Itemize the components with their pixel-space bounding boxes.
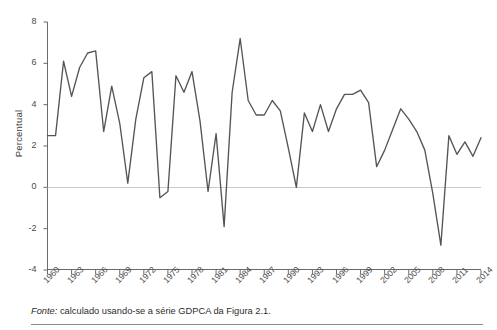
y-tick-label: 6 bbox=[15, 57, 37, 67]
y-tick-label: 0 bbox=[15, 181, 37, 191]
chart-plot-area: Percentual 86420-2-4 1960196319661969197… bbox=[0, 0, 497, 300]
y-tick-label: 4 bbox=[15, 99, 37, 109]
source-note-text: calculado usando-se a série GDPCA da Fig… bbox=[57, 306, 270, 316]
figure-container: Percentual 86420-2-4 1960196319661969197… bbox=[0, 0, 497, 330]
source-note: Fonte: calculado usando-se a série GDPCA… bbox=[31, 306, 271, 316]
y-tick-marks bbox=[44, 22, 48, 270]
y-tick-label: -2 bbox=[15, 223, 37, 233]
bottom-divider bbox=[31, 324, 483, 325]
source-note-label: Fonte: bbox=[31, 306, 57, 316]
y-tick-label: 8 bbox=[15, 16, 37, 26]
line-chart-svg bbox=[0, 0, 497, 300]
gdp-growth-series-line bbox=[48, 39, 482, 246]
y-tick-label: -4 bbox=[15, 264, 37, 274]
y-tick-label: 2 bbox=[15, 140, 37, 150]
